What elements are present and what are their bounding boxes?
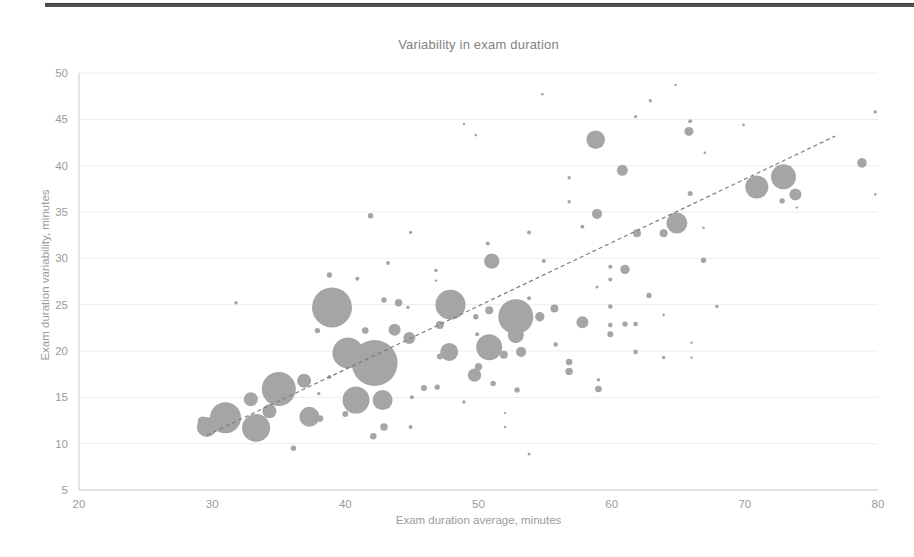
x-axis-title: Exam duration average, minutes [79,514,878,526]
bubble [704,151,707,154]
bubble [242,414,270,442]
bubble [702,227,705,230]
bubble [370,433,377,440]
page-top-rule [45,3,914,7]
bubble [634,115,637,118]
y-tick-label: 20 [55,345,68,357]
bubble [475,332,479,336]
bubble [317,392,320,395]
y-tick-label: 15 [55,391,68,403]
y-tick-label: 5 [62,484,68,496]
bubble [291,446,296,451]
bubble [437,354,443,360]
bubble [389,324,401,336]
bubble [742,124,745,127]
scanned-page: Variability in exam duration 20304050607… [0,0,914,557]
bubble [485,306,493,314]
bubble [857,158,867,168]
bubble [586,130,605,149]
bubble [666,213,687,234]
x-tick-label: 40 [339,498,352,510]
y-tick-label: 40 [55,160,68,172]
bubble [380,423,388,431]
y-tick-label: 30 [55,252,68,264]
bubble [771,164,796,189]
bubble [475,363,482,370]
bubble [690,342,692,344]
bubble [198,416,208,426]
bubble [514,387,519,392]
bubble [745,176,768,199]
x-tick-label: 60 [605,498,618,510]
bubble [688,191,693,196]
bubble-chart: 203040506070805101520253035404550 [0,0,914,557]
bubble [566,359,573,366]
bubble [597,378,600,381]
bubble [541,93,544,96]
y-tick-label: 35 [55,206,68,218]
bubble [633,350,638,355]
bubble [622,321,627,326]
bubble [381,297,386,302]
bubble [410,395,414,399]
bubble [660,229,668,237]
bubble [701,258,706,263]
bubble [463,123,466,126]
bubble [343,387,370,414]
bubble [779,198,784,203]
bubble [342,411,348,417]
bubble [789,188,801,200]
bubble [440,343,458,361]
bubble [368,213,373,218]
bubble [542,259,546,263]
bubble [580,225,584,229]
bubble [796,206,798,208]
chart-title: Variability in exam duration [79,37,878,52]
bubble [565,368,572,375]
bubble [234,301,237,304]
bubble [567,176,570,179]
bubble [490,381,495,386]
bubble [684,127,693,136]
bubble [312,287,352,327]
bubble [476,334,502,360]
y-tick-label: 45 [55,113,68,125]
bubble [595,386,602,393]
trendline [207,136,836,435]
bubble [608,278,612,282]
bubble [620,265,629,274]
bubble [262,404,276,418]
bubble [297,374,311,388]
bubble [435,384,440,389]
bubble [333,337,364,368]
bubble [592,209,602,219]
bubble [690,356,692,358]
bubble [608,265,612,269]
bubble [486,242,490,246]
bubble [504,426,507,429]
y-tick-label: 25 [55,299,68,311]
bubble [527,230,531,234]
x-tick-label: 30 [206,498,219,510]
y-axis-title: Exam duration variability, minutes [39,189,51,360]
bubble [436,290,466,320]
bubble [373,390,393,410]
bubble [535,312,544,321]
bubble [662,314,665,317]
x-tick-label: 70 [738,498,751,510]
bubble [662,356,665,359]
bubble [646,293,651,298]
bubble [608,323,613,328]
bubble [421,385,427,391]
bubble [475,134,478,137]
bubble [317,415,324,422]
y-tick-label: 10 [55,438,68,450]
bubble [473,314,478,319]
bubble [395,299,402,306]
bubble [688,119,692,123]
bubble [516,347,526,357]
bubble [674,84,677,87]
bubble [567,200,570,203]
bubble [327,272,332,277]
bubble [462,400,465,403]
